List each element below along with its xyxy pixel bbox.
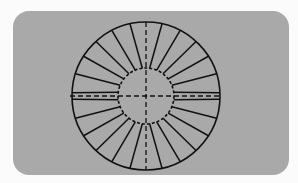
spoke: [150, 24, 162, 68]
spoke: [112, 122, 135, 162]
spoke: [168, 56, 208, 79]
spoke: [168, 113, 208, 136]
spoke: [75, 74, 120, 86]
spoke: [96, 41, 129, 73]
spoke: [130, 124, 142, 168]
spoke: [84, 56, 124, 79]
spoke: [112, 30, 135, 70]
spoke: [157, 30, 180, 70]
spoke: [172, 107, 217, 119]
spoke: [172, 74, 217, 86]
spoke: [163, 118, 196, 150]
spoke: [96, 118, 129, 150]
spoke: [84, 113, 124, 136]
spoked-disc-diagram: [0, 0, 298, 183]
spoke: [75, 107, 120, 119]
center-point: [145, 95, 147, 97]
spoke: [130, 24, 142, 68]
spoke: [163, 41, 196, 73]
spoke: [150, 124, 162, 168]
spoke: [157, 122, 180, 162]
